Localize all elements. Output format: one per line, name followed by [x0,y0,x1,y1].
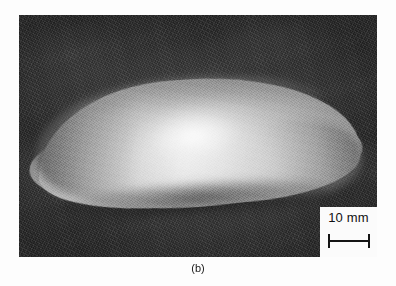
scale-bar-label: 10 mm [328,210,369,226]
figure-caption: (b) [0,262,396,274]
scale-bar-right-cap [368,234,370,248]
figure-root: 10 mm (b) [0,0,396,286]
scale-bar-line [328,240,370,242]
scale-bar-inset: 10 mm [320,207,377,257]
specimen-photograph: 10 mm [19,15,377,257]
scale-bar-graphic [328,234,370,248]
